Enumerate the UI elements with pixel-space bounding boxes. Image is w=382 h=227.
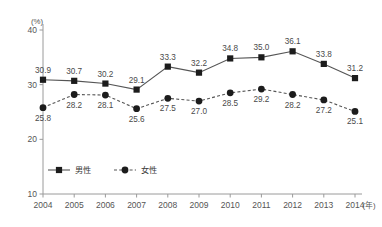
data-point-label: 34.8 xyxy=(222,44,238,53)
x-tick-label: 2004 xyxy=(34,200,53,210)
y-tick-label: 40 xyxy=(28,25,38,35)
x-axis-unit-label: (年) xyxy=(362,200,376,210)
data-point-marker xyxy=(258,54,264,60)
x-tick-label: 2013 xyxy=(314,200,333,210)
data-point-label: 27.0 xyxy=(191,107,207,116)
x-tick-label: 2011 xyxy=(252,200,271,210)
data-point-marker xyxy=(102,80,108,86)
data-point-marker xyxy=(133,105,140,112)
legend-label-1: 男性 xyxy=(75,165,91,175)
data-point-marker xyxy=(352,75,358,81)
data-point-marker xyxy=(321,61,327,67)
data-point-marker xyxy=(196,98,203,105)
data-point-label: 28.2 xyxy=(285,101,301,110)
data-point-label: 35.0 xyxy=(253,43,269,52)
y-tick-label: 20 xyxy=(28,134,38,144)
data-point-marker xyxy=(227,89,234,96)
y-tick-label: 10 xyxy=(28,189,38,199)
data-point-marker xyxy=(196,70,202,76)
x-tick-label: 2007 xyxy=(127,200,146,210)
data-point-label: 30.7 xyxy=(66,67,82,76)
x-tick-label: 2009 xyxy=(190,200,209,210)
data-point-marker xyxy=(289,91,296,98)
data-point-marker xyxy=(352,108,359,115)
x-axis: 2004200520062007200820092010201120122013… xyxy=(34,194,376,210)
data-point-label: 33.8 xyxy=(316,50,332,59)
x-tick-label: 2008 xyxy=(158,200,177,210)
data-point-marker xyxy=(102,92,109,99)
data-point-label: 29.2 xyxy=(253,95,269,104)
x-tick-label: 2005 xyxy=(65,200,84,210)
legend-marker-1 xyxy=(56,167,62,173)
x-tick-label: 2010 xyxy=(221,200,240,210)
data-point-marker xyxy=(320,97,327,104)
line-chart: 10203040 2004200520062007200820092010201… xyxy=(0,0,382,227)
data-point-label: 32.2 xyxy=(191,59,207,68)
data-point-marker xyxy=(40,104,47,111)
data-point-label: 25.6 xyxy=(129,115,145,124)
y-axis: 10203040 xyxy=(28,24,43,199)
data-point-label: 33.3 xyxy=(160,53,176,62)
x-tick-label: 2012 xyxy=(283,200,302,210)
data-point-label: 36.1 xyxy=(285,37,301,46)
data-point-marker xyxy=(258,86,265,93)
data-point-marker xyxy=(290,48,296,54)
data-point-label: 29.1 xyxy=(129,76,145,85)
data-point-label: 30.2 xyxy=(97,70,113,79)
data-point-label: 27.5 xyxy=(160,104,176,113)
data-point-marker xyxy=(71,78,77,84)
data-point-marker xyxy=(134,86,140,92)
x-tick-label: 2006 xyxy=(96,200,115,210)
data-point-label: 28.5 xyxy=(222,99,238,108)
legend-label-2: 女性 xyxy=(141,165,157,175)
data-point-marker xyxy=(164,95,171,102)
legend-marker-2 xyxy=(122,167,129,174)
data-point-label: 25.8 xyxy=(35,114,51,123)
data-point-marker xyxy=(40,77,46,83)
y-tick-label: 30 xyxy=(28,80,38,90)
data-point-marker xyxy=(165,64,171,70)
chart-legend: 男性女性 xyxy=(48,165,157,175)
data-point-label: 28.2 xyxy=(66,101,82,110)
data-point-label: 30.9 xyxy=(35,66,51,75)
chart-canvas: 10203040 2004200520062007200820092010201… xyxy=(0,0,382,227)
data-point-label: 31.2 xyxy=(347,64,363,73)
data-point-label: 25.1 xyxy=(347,117,363,126)
data-point-marker xyxy=(227,55,233,61)
data-point-marker xyxy=(71,91,78,98)
data-point-label: 27.2 xyxy=(316,106,332,115)
data-point-label: 28.1 xyxy=(97,101,113,110)
